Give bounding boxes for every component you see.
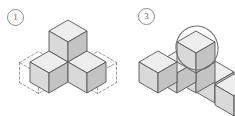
figure-panel-1: 1 .ftop { fill:#eeeeee; stroke:#555555; … — [0, 0, 120, 116]
figure-board: 1 .ftop { fill:#eeeeee; stroke:#555555; … — [0, 0, 235, 116]
figure-1-drawing: .ftop { fill:#eeeeee; stroke:#555555; st… — [0, 0, 120, 116]
figure-3-drawing: .g-top { fill:#eeeeee; stroke:#555555; s… — [120, 0, 235, 116]
figure-panel-3: 3 .g-top { fill:#eeeeee; stroke:#555555;… — [120, 0, 235, 116]
